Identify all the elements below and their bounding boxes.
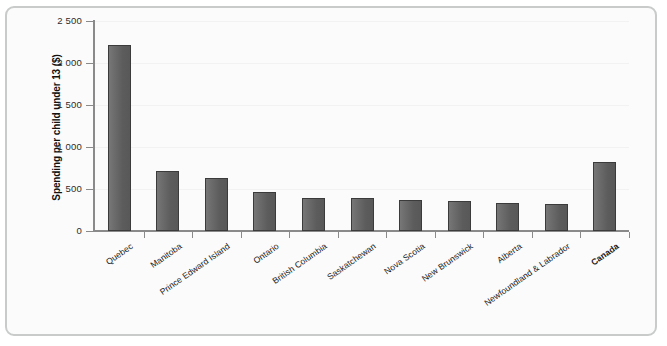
x-axis-label: New Brunswick: [420, 241, 475, 284]
x-tick-mark: [289, 232, 290, 238]
y-tick-label: 1 000: [57, 141, 82, 152]
y-tick-label: 2 000: [57, 57, 82, 68]
bar-prince-edward-island: [205, 178, 228, 231]
y-tick-mark: [86, 231, 93, 232]
x-tick-mark: [483, 232, 484, 238]
x-axis-label: Quebec: [104, 241, 135, 267]
plot-area: Spending per child under 13 ($) 2 5002 0…: [0, 0, 667, 346]
x-axis-label: Newfoundland & Labrador: [482, 241, 571, 308]
bar-british-columbia: [302, 198, 325, 231]
x-axis-label: Canada: [589, 241, 621, 267]
x-tick-mark: [532, 232, 533, 238]
grid-line: [95, 63, 629, 64]
y-tick-label-wrap: 1 500: [40, 99, 82, 111]
y-tick-label: 2 500: [57, 15, 82, 26]
x-axis-label: Ontario: [251, 241, 280, 266]
x-tick-mark: [580, 232, 581, 238]
x-tick-mark: [435, 232, 436, 238]
chart-figure: Spending per child under 13 ($) 2 5002 0…: [0, 0, 667, 346]
y-tick-mark: [86, 21, 93, 22]
y-tick-mark: [86, 105, 93, 106]
y-tick-mark: [86, 147, 93, 148]
y-tick-mark: [86, 189, 93, 190]
x-tick-mark: [629, 232, 630, 238]
bar-saskatchewan: [351, 198, 374, 231]
y-tick-label: 1 500: [57, 99, 82, 110]
bar-ontario: [253, 192, 276, 231]
bar-manitoba: [156, 171, 179, 231]
bar-nova-scotia: [399, 200, 422, 231]
y-tick-label: 500: [66, 183, 82, 194]
x-tick-mark: [144, 232, 145, 238]
y-tick-label-wrap: 2 000: [40, 57, 82, 69]
x-tick-mark: [386, 232, 387, 238]
x-axis-label: Saskatchewan: [325, 241, 378, 282]
x-axis-label: Manitoba: [148, 241, 183, 270]
bar-canada: [593, 162, 616, 231]
y-tick-label-wrap: 500: [40, 183, 82, 195]
bar-newfoundland-labrador: [545, 204, 568, 231]
x-tick-mark: [241, 232, 242, 238]
grid-line: [95, 21, 629, 22]
bar-quebec: [108, 45, 131, 231]
y-tick-label: 0: [77, 225, 82, 236]
bar-alberta: [496, 203, 519, 231]
y-tick-label-wrap: 0: [40, 225, 82, 237]
x-tick-mark: [338, 232, 339, 238]
x-tick-mark: [192, 232, 193, 238]
x-axis-label: Nova Scotia: [382, 241, 427, 276]
x-axis-label: Alberta: [495, 241, 524, 265]
y-tick-label-wrap: 2 500: [40, 15, 82, 27]
y-tick-mark: [86, 63, 93, 64]
y-axis-line: [93, 20, 95, 232]
y-tick-label-wrap: 1 000: [40, 141, 82, 153]
grid-line: [95, 147, 629, 148]
grid-line: [95, 105, 629, 106]
bar-new-brunswick: [448, 201, 471, 231]
